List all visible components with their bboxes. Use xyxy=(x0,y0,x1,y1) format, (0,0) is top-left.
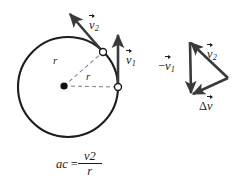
vector-label-v2-triangle-sub: 2 xyxy=(213,53,217,62)
centripetal-acceleration-figure: r r v2 v1 −v1 v2 Δv ac = v2 r xyxy=(0,0,245,185)
radius-line-lower xyxy=(64,86,118,87)
vector-label-minus-v1-triangle: −v1 xyxy=(158,60,175,75)
vector-label-v2-triangle: v2 xyxy=(207,48,217,63)
center-point-dot xyxy=(60,82,67,89)
vector-label-v2-circle-sub: 2 xyxy=(95,24,99,33)
centripetal-acceleration-equation: ac = v2 r xyxy=(56,150,99,179)
arrow-overbar-icon xyxy=(207,44,212,45)
vector-label-minus-v1-prefix: − xyxy=(158,59,165,73)
vector-arrow-overbar-delta-v: v xyxy=(207,100,213,113)
equation-equals-sign: = xyxy=(71,157,78,172)
position-marker-2 xyxy=(100,49,107,56)
radius-line-upper xyxy=(64,52,103,86)
equation-numerator: v2 xyxy=(81,150,99,163)
vector-label-delta-v-base: v xyxy=(207,99,213,113)
equation-numerator-exponent: 2 xyxy=(89,149,95,163)
diagram-canvas xyxy=(0,0,245,185)
radius-label-lower: r xyxy=(86,71,90,82)
vector-arrow-overbar-minus-v1: v xyxy=(165,60,171,73)
radius-label-upper: r xyxy=(53,55,57,66)
vector-label-v1-circle-base: v xyxy=(126,53,132,67)
equation-lhs: ac xyxy=(56,157,68,172)
vector-minus-v1-triangle xyxy=(190,42,191,93)
vector-label-v1-circle: v1 xyxy=(126,54,136,69)
vector-arrow-overbar-v2-circle: v xyxy=(89,19,95,32)
vector-label-v2-circle-base: v xyxy=(89,18,95,32)
vector-delta-v-triangle xyxy=(193,78,228,94)
position-marker-1 xyxy=(115,84,122,91)
equation-denominator: r xyxy=(78,163,102,178)
vector-label-delta-v-triangle: Δv xyxy=(199,100,213,113)
arrow-overbar-icon xyxy=(126,50,131,51)
vector-label-v1-circle-sub: 1 xyxy=(132,59,136,68)
equation-lhs-sub: c xyxy=(62,157,68,171)
arrow-overbar-icon xyxy=(165,56,170,57)
arrow-overbar-icon xyxy=(89,15,94,16)
arrow-overbar-icon xyxy=(207,96,212,97)
vector-label-v2-triangle-base: v xyxy=(207,47,213,61)
vector-label-minus-v1-base: v xyxy=(165,59,171,73)
equation-fraction: v2 r xyxy=(81,150,99,179)
vector-label-v2-circle: v2 xyxy=(89,19,99,34)
vector-label-delta-v-prefix: Δ xyxy=(199,99,207,113)
vector-label-minus-v1-sub: 1 xyxy=(171,65,175,74)
vector-arrow-overbar-v1-circle: v xyxy=(126,54,132,67)
vector-arrow-overbar-v2-triangle: v xyxy=(207,48,213,61)
